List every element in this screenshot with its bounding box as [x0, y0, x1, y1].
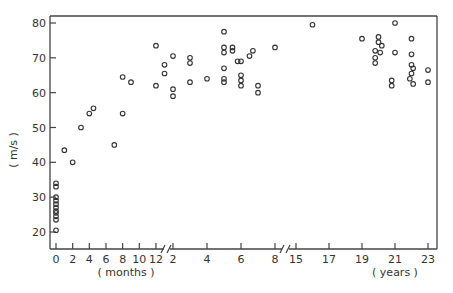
x-tick-label: 17 [322, 253, 336, 266]
data-point [380, 43, 385, 48]
data-point [222, 45, 227, 50]
data-point [409, 52, 414, 57]
x-tick-label: 19 [355, 253, 369, 266]
x-tick-label: 12 [149, 253, 163, 266]
y-tick-label: 40 [32, 156, 46, 169]
x-tick-label: 10 [132, 253, 146, 266]
scatter-chart: 20304050607080 02468101224681517192123 (… [0, 0, 453, 293]
x-tick-label: 23 [421, 253, 435, 266]
data-point [129, 80, 134, 85]
data-point [120, 75, 125, 80]
y-tick-label: 30 [32, 191, 46, 204]
data-point [239, 73, 244, 78]
data-point [409, 36, 414, 41]
data-point [426, 68, 431, 73]
data-point [389, 78, 394, 83]
x-tick-label: 8 [119, 253, 126, 266]
data-point [360, 36, 365, 41]
data-point [247, 54, 252, 59]
data-point [188, 80, 193, 85]
data-point [310, 22, 315, 27]
data-point [378, 50, 383, 55]
x-tick-label: 2 [69, 253, 76, 266]
data-point [373, 49, 378, 54]
data-point [256, 90, 261, 95]
data-point [239, 78, 244, 83]
data-point [251, 49, 256, 54]
data-point [426, 80, 431, 85]
data-point [70, 160, 75, 165]
y-tick-label: 20 [32, 226, 46, 239]
data-point [409, 71, 414, 76]
x-tick-label: 4 [86, 253, 93, 266]
x-axis-ticks: 02468101224681517192123 [53, 243, 436, 266]
data-point [239, 83, 244, 88]
data-point [408, 76, 413, 81]
data-point [79, 125, 84, 130]
data-point [393, 50, 398, 55]
data-point [154, 83, 159, 88]
data-point [373, 56, 378, 61]
data-point [376, 35, 381, 40]
x-axis-label-years: ( years ) [372, 266, 418, 279]
data-point [91, 106, 96, 111]
data-point [256, 83, 261, 88]
y-tick-label: 50 [32, 122, 46, 135]
data-point [171, 54, 176, 59]
data-point [273, 45, 278, 50]
data-point [389, 83, 394, 88]
x-tick-label: 15 [289, 253, 303, 266]
x-axis-label-months: ( months ) [97, 266, 154, 279]
x-tick-label: 0 [53, 253, 60, 266]
y-tick-label: 60 [32, 87, 46, 100]
data-point [120, 111, 125, 116]
x-tick-label: 6 [238, 253, 245, 266]
data-point [411, 82, 416, 87]
data-point [162, 71, 167, 76]
y-tick-label: 80 [32, 17, 46, 30]
data-point [393, 21, 398, 26]
data-point [205, 76, 210, 81]
data-point [222, 66, 227, 71]
data-point [222, 50, 227, 55]
y-axis-ticks: 20304050607080 [32, 17, 56, 239]
data-point [112, 143, 117, 148]
x-tick-label: 4 [204, 253, 211, 266]
y-axis-label: ( m/s ) [7, 132, 20, 168]
data-point [62, 148, 67, 153]
data-point [373, 61, 378, 66]
x-tick-label: 8 [272, 253, 279, 266]
data-point [87, 111, 92, 116]
data-point [188, 61, 193, 66]
data-point [222, 29, 227, 34]
data-point [171, 87, 176, 92]
x-tick-label: 6 [102, 253, 109, 266]
data-point [188, 56, 193, 61]
y-tick-label: 70 [32, 52, 46, 65]
data-point [171, 94, 176, 99]
x-tick-label: 21 [388, 253, 402, 266]
data-point [154, 43, 159, 48]
data-points [54, 21, 431, 233]
data-point [162, 63, 167, 68]
x-tick-label: 2 [170, 253, 177, 266]
